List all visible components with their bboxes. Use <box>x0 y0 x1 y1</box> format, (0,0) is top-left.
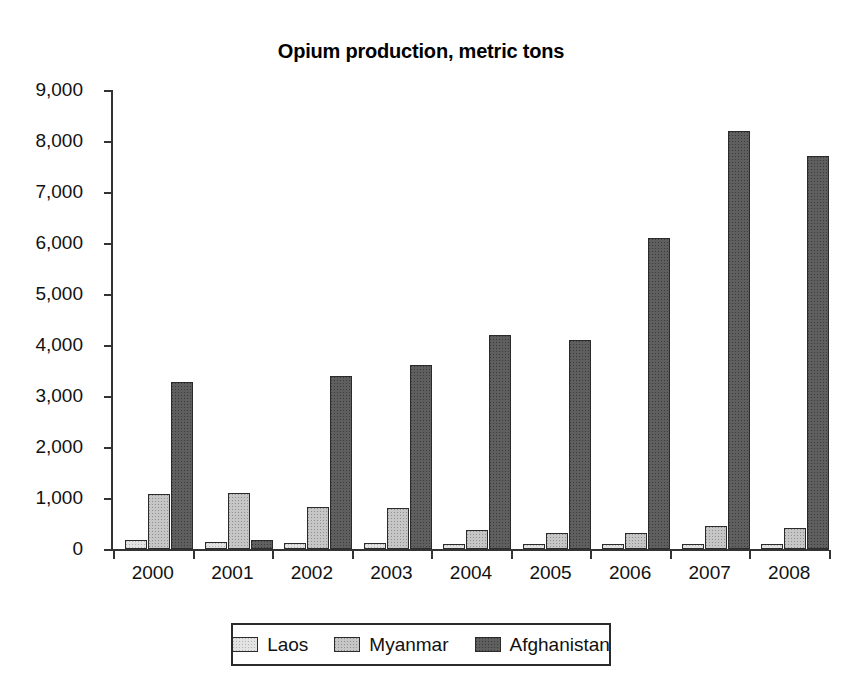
bar <box>443 544 465 549</box>
bar <box>489 335 511 549</box>
bar <box>364 543 386 549</box>
y-tick-label: 9,000 <box>0 79 83 101</box>
chart-title: Opium production, metric tons <box>0 40 842 63</box>
bar-chart-plot-area: 01,0002,0003,0004,0005,0006,0007,0008,00… <box>113 90 829 549</box>
y-tick-label: 2,000 <box>0 436 83 458</box>
x-tick-label: 2001 <box>187 562 277 584</box>
chart-legend: LaosMyanmarAfghanistan <box>231 623 611 666</box>
x-tick-label: 2008 <box>744 562 834 584</box>
bar-group <box>523 90 592 549</box>
bar <box>284 543 306 549</box>
x-tick-label: 2005 <box>506 562 596 584</box>
y-tick-mark <box>104 447 112 449</box>
bar <box>148 494 170 549</box>
bar <box>569 340 591 549</box>
bar <box>682 544 704 549</box>
bar <box>705 526 727 549</box>
bar-group <box>205 90 274 549</box>
bar-group <box>443 90 512 549</box>
bar <box>387 508 409 549</box>
x-tick-label: 2006 <box>585 562 675 584</box>
legend-item: Afghanistan <box>475 634 610 656</box>
bar-group <box>602 90 671 549</box>
legend-label: Laos <box>267 634 308 656</box>
bar <box>125 540 147 549</box>
bar <box>466 530 488 549</box>
x-tick-label: 2007 <box>665 562 755 584</box>
bar <box>171 382 193 549</box>
x-tick-mark <box>352 550 354 559</box>
y-tick-label: 3,000 <box>0 385 83 407</box>
x-tick-label: 2003 <box>346 562 436 584</box>
y-axis-line <box>111 90 113 551</box>
x-tick-mark <box>193 550 195 559</box>
y-tick-mark <box>104 141 112 143</box>
bar <box>330 376 352 549</box>
bar <box>410 365 432 549</box>
cropped-caption-strip <box>0 0 842 4</box>
bar <box>251 540 273 549</box>
bar-group <box>682 90 751 549</box>
bar <box>546 533 568 549</box>
bar <box>205 542 227 549</box>
x-axis-line <box>111 549 829 551</box>
bar <box>228 493 250 549</box>
bar <box>625 533 647 549</box>
y-tick-label: 7,000 <box>0 181 83 203</box>
x-tick-mark <box>590 550 592 559</box>
legend-swatch <box>475 637 501 652</box>
legend-swatch <box>334 637 360 652</box>
y-tick-label: 5,000 <box>0 283 83 305</box>
bar <box>307 507 329 549</box>
bar <box>784 528 806 549</box>
x-tick-mark <box>511 550 513 559</box>
x-tick-mark <box>431 550 433 559</box>
x-tick-mark <box>272 550 274 559</box>
y-tick-label: 4,000 <box>0 334 83 356</box>
y-tick-mark <box>104 243 112 245</box>
legend-item: Myanmar <box>334 634 448 656</box>
legend-swatch <box>232 637 258 652</box>
y-tick-label: 8,000 <box>0 130 83 152</box>
y-tick-mark <box>104 498 112 500</box>
x-tick-mark <box>829 550 831 559</box>
y-tick-label: 0 <box>0 538 83 560</box>
x-tick-mark <box>670 550 672 559</box>
y-tick-mark <box>104 294 112 296</box>
x-tick-mark <box>113 550 115 559</box>
y-tick-label: 6,000 <box>0 232 83 254</box>
x-tick-label: 2002 <box>267 562 357 584</box>
bar-group <box>125 90 194 549</box>
bar-group <box>761 90 830 549</box>
x-tick-mark <box>749 550 751 559</box>
legend-label: Afghanistan <box>510 634 610 656</box>
legend-item: Laos <box>232 634 308 656</box>
bar <box>761 544 783 549</box>
bar <box>602 544 624 549</box>
y-tick-mark <box>104 345 112 347</box>
x-tick-label: 2000 <box>108 562 198 584</box>
y-tick-mark <box>104 396 112 398</box>
bar <box>807 156 829 549</box>
bar <box>523 544 545 549</box>
bar <box>648 238 670 549</box>
legend-label: Myanmar <box>369 634 448 656</box>
y-tick-label: 1,000 <box>0 487 83 509</box>
bar <box>728 131 750 549</box>
y-tick-mark <box>104 90 112 92</box>
bar-group <box>364 90 433 549</box>
y-tick-mark <box>104 549 112 551</box>
y-tick-mark <box>104 192 112 194</box>
bar-group <box>284 90 353 549</box>
x-tick-label: 2004 <box>426 562 516 584</box>
